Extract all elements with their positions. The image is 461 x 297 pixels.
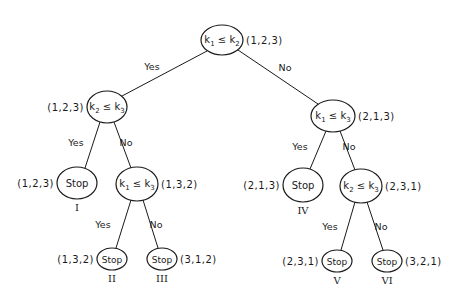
edge-root-to-left: Yes <box>122 51 207 96</box>
edge-line <box>310 131 326 169</box>
edge-line <box>238 50 318 104</box>
edge-line <box>122 51 207 96</box>
permutation-label: (2,1,3) <box>358 111 395 122</box>
stop-label: Stop <box>327 257 348 267</box>
edge-label-no: No <box>375 221 388 232</box>
stop-label: Stop <box>377 257 398 267</box>
edge-left2-to-stop3: No <box>143 200 163 248</box>
stop-node-stop2: StopII(1,3,2) <box>57 248 127 284</box>
comparison-node-left2: k1 ≤ k3(1,3,2) <box>116 167 198 201</box>
permutation-label: (1,3,2) <box>57 254 94 265</box>
permutation-label: (3,2,1) <box>405 256 442 267</box>
stop-node-stop6: StopVI(3,2,1) <box>372 250 442 286</box>
stop-label: Stop <box>102 255 123 265</box>
edge-left-to-stop1: Yes <box>67 122 100 168</box>
permutation-label: (1,3,2) <box>161 179 198 190</box>
edge-label-yes: Yes <box>67 137 83 148</box>
permutation-label: (1,2,3) <box>47 102 84 113</box>
stop-label: Stop <box>66 178 89 189</box>
stop-label: Stop <box>292 180 315 191</box>
leaf-number: IV <box>297 205 309 216</box>
leaf-number: I <box>75 202 79 213</box>
edges-layer: YesNoYesNoYesNoYesNoYesNo <box>67 50 387 250</box>
permutation-label: (3,1,2) <box>180 254 217 265</box>
leaf-number: VI <box>380 275 392 286</box>
comparison-node-right: k1 ≤ k3(2,1,3) <box>311 100 395 132</box>
edge-line <box>341 202 355 250</box>
stop-node-stop5: StopV(2,3,1) <box>282 250 352 286</box>
permutation-label: (1,2,3) <box>17 178 54 189</box>
comparison-node-left: k2 ≤ k3(1,2,3) <box>47 91 127 123</box>
decision-tree-diagram: YesNoYesNoYesNoYesNoYesNo k1 ≤ k2(1,2,3)… <box>0 0 461 297</box>
edge-right2-to-stop6: No <box>367 202 388 250</box>
edge-line <box>85 122 100 168</box>
stop-label: Stop <box>152 255 173 265</box>
leaf-number: V <box>332 275 341 286</box>
edge-label-no: No <box>343 141 356 152</box>
stop-node-stop4: StopIV(2,1,3) <box>243 168 323 216</box>
permutation-label: (2,3,1) <box>385 181 422 192</box>
edge-label-yes: Yes <box>143 61 159 72</box>
permutation-label: (2,1,3) <box>243 180 280 191</box>
edge-label-no: No <box>279 62 292 73</box>
comparison-node-right2: k2 ≤ k3(2,3,1) <box>340 169 422 203</box>
edge-label-yes: Yes <box>94 219 110 230</box>
edge-label-no: No <box>150 219 163 230</box>
comparison-node-root: k1 ≤ k2(1,2,3) <box>201 25 283 55</box>
leaf-number: II <box>108 273 116 284</box>
edge-left2-to-stop2: Yes <box>94 200 131 248</box>
permutation-label: (1,2,3) <box>246 35 283 46</box>
edge-right-to-right2: No <box>340 131 356 170</box>
edge-label-yes: Yes <box>291 141 307 152</box>
edge-root-to-right: No <box>238 50 318 104</box>
edge-label-no: No <box>120 137 133 148</box>
nodes-layer: k1 ≤ k2(1,2,3)k2 ≤ k3(1,2,3)k1 ≤ k3(2,1,… <box>17 25 442 286</box>
leaf-number: III <box>156 273 168 284</box>
edge-right-to-stop4: Yes <box>291 131 326 169</box>
edge-right2-to-stop5: Yes <box>321 202 355 250</box>
edge-line <box>116 200 131 248</box>
stop-node-stop1: StopI(1,2,3) <box>17 167 97 213</box>
edge-label-yes: Yes <box>321 221 337 232</box>
stop-node-stop3: StopIII(3,1,2) <box>147 248 217 284</box>
edge-left-to-left2: No <box>114 122 133 168</box>
permutation-label: (2,3,1) <box>282 256 319 267</box>
